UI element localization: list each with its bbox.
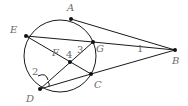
point-f: [68, 60, 72, 64]
angle-2-arc: [48, 82, 49, 86]
segment-eg: [26, 36, 93, 42]
point-e: [24, 34, 28, 38]
point-g: [91, 40, 95, 44]
point-a: [69, 17, 73, 21]
label-e: E: [9, 24, 18, 35]
angle-label-2: 2: [32, 66, 38, 77]
point-c: [89, 72, 93, 76]
geometry-diagram: A E G F C D B 1 2 3 4: [0, 0, 188, 106]
label-d: D: [25, 93, 34, 104]
angle-label-1: 1: [137, 43, 143, 54]
point-d: [38, 87, 42, 91]
angle-2-pointer: [38, 75, 48, 80]
label-b: B: [171, 55, 179, 66]
label-f: F: [51, 47, 60, 58]
angle-label-3: 3: [77, 44, 83, 55]
label-a: A: [66, 2, 74, 13]
angle-label-4: 4: [66, 49, 72, 60]
segment-dc: [40, 74, 91, 89]
label-c: C: [94, 79, 102, 90]
point-b: [173, 48, 177, 52]
label-g: G: [96, 43, 104, 54]
